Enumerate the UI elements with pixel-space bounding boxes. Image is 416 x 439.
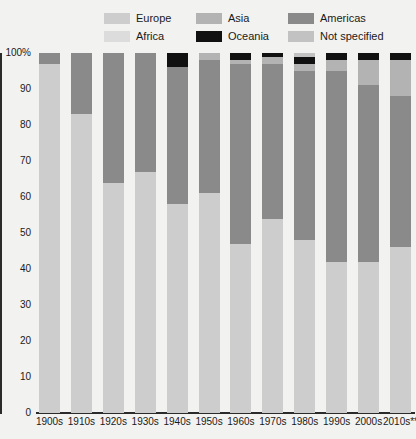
- x-axis-tick-1970s: 1970s: [262, 416, 283, 434]
- legend-item-oceania: Oceania: [196, 31, 288, 42]
- legend-swatch-europe: [104, 13, 130, 24]
- y-axis-tick-80: 80: [20, 120, 36, 130]
- x-axis-tick-1950s: 1950s: [199, 416, 220, 434]
- bar-segment-oceania: [390, 53, 411, 60]
- legend-swatch-not-specified: [288, 31, 314, 42]
- stacked-bar-series: [36, 53, 414, 413]
- legend-label-asia: Asia: [228, 13, 249, 24]
- x-axis-tick-1910s: 1910s: [71, 416, 92, 434]
- y-axis-tick-20: 20: [20, 336, 36, 346]
- bar-column-2000s[interactable]: [358, 53, 379, 413]
- bar-segment-europe: [135, 172, 156, 413]
- bar-column-1960s[interactable]: [230, 53, 251, 413]
- legend-item-europe: Europe: [104, 13, 196, 24]
- bar-segment-americas: [135, 53, 156, 172]
- y-axis-tick-60: 60: [20, 192, 36, 202]
- legend-swatch-americas: [288, 13, 314, 24]
- x-axis-tick-1960s: 1960s: [230, 416, 251, 434]
- bar-column-1990s[interactable]: [326, 53, 347, 413]
- bar-segment-oceania: [294, 57, 315, 64]
- bar-segment-oceania: [230, 53, 251, 60]
- legend-swatch-africa: [104, 31, 130, 42]
- bar-column-1920s[interactable]: [103, 53, 124, 413]
- y-axis-tick-90: 90: [20, 84, 36, 94]
- bar-segment-asia: [294, 64, 315, 71]
- x-axis-tick-1940s: 1940s: [167, 416, 188, 434]
- bar-segment-europe: [199, 193, 220, 413]
- y-axis-tick-10: 10: [20, 372, 36, 382]
- bar-segment-europe: [230, 244, 251, 413]
- bar-segment-americas: [39, 53, 60, 64]
- legend-label-oceania: Oceania: [228, 31, 269, 42]
- bar-segment-europe: [326, 262, 347, 413]
- legend-item-africa: Africa: [104, 31, 196, 42]
- bar-column-1910s[interactable]: [71, 53, 92, 413]
- x-axis-tick-1930s: 1930s: [135, 416, 156, 434]
- bar-segment-europe: [71, 114, 92, 413]
- bar-segment-americas: [358, 85, 379, 261]
- bar-segment-americas: [294, 71, 315, 240]
- bar-segment-europe: [358, 262, 379, 413]
- bar-column-1940s[interactable]: [167, 53, 188, 413]
- bar-segment-europe: [103, 183, 124, 413]
- bar-column-1950s[interactable]: [199, 53, 220, 413]
- bar-column-1980s[interactable]: [294, 53, 315, 413]
- bar-segment-europe: [167, 204, 188, 413]
- y-axis-tick-70: 70: [20, 156, 36, 166]
- legend-swatch-oceania: [196, 31, 222, 42]
- bar-segment-americas: [103, 53, 124, 183]
- bar-column-2010s[interactable]: [390, 53, 411, 413]
- x-axis-tick-1920s: 1920s: [103, 416, 124, 434]
- x-axis-tick-1900s: 1900s: [39, 416, 60, 434]
- bar-column-1900s[interactable]: [39, 53, 60, 413]
- chart-legend: Europe Asia Americas Africa Oceania Not …: [104, 10, 410, 44]
- bar-segment-asia: [358, 60, 379, 85]
- y-axis-tick-30: 30: [20, 300, 36, 310]
- chart-plot-area: [36, 53, 414, 413]
- bar-segment-europe: [262, 219, 283, 413]
- bar-segment-americas: [262, 64, 283, 219]
- bar-segment-americas: [326, 71, 347, 262]
- bar-segment-americas: [390, 96, 411, 247]
- y-axis-tick-100: 100%: [5, 48, 36, 58]
- legend-label-africa: Africa: [136, 31, 164, 42]
- legend-item-americas: Americas: [288, 13, 410, 24]
- bar-column-1930s[interactable]: [135, 53, 156, 413]
- bar-segment-asia: [326, 60, 347, 71]
- y-axis-tick-50: 50: [20, 228, 36, 238]
- legend-item-asia: Asia: [196, 13, 288, 24]
- bar-segment-oceania: [326, 53, 347, 60]
- y-axis-line: [0, 53, 2, 414]
- legend-swatch-asia: [196, 13, 222, 24]
- bar-column-1970s[interactable]: [262, 53, 283, 413]
- x-axis-tick-1990s: 1990s: [326, 416, 347, 434]
- bar-segment-americas: [199, 60, 220, 193]
- x-axis-tick-2010s: 2010s**: [390, 416, 411, 434]
- bar-segment-oceania: [167, 53, 188, 67]
- legend-item-not-specified: Not specified: [288, 31, 410, 42]
- bar-segment-asia: [390, 60, 411, 96]
- bar-segment-europe: [390, 247, 411, 413]
- x-axis-tick-2000s: 2000s: [358, 416, 379, 434]
- bar-segment-americas: [71, 53, 92, 114]
- x-axis-tick-1980s: 1980s: [294, 416, 315, 434]
- bar-segment-europe: [39, 64, 60, 413]
- legend-label-europe: Europe: [136, 13, 171, 24]
- bar-segment-americas: [167, 67, 188, 204]
- bar-segment-asia: [262, 57, 283, 64]
- bar-segment-americas: [230, 64, 251, 244]
- y-axis-tick-40: 40: [20, 264, 36, 274]
- bar-segment-asia: [199, 53, 220, 60]
- legend-label-americas: Americas: [320, 13, 366, 24]
- bar-segment-oceania: [358, 53, 379, 60]
- y-axis-tick-0: 0: [25, 408, 36, 418]
- bar-segment-europe: [294, 240, 315, 413]
- legend-label-not-specified: Not specified: [320, 31, 384, 42]
- x-axis-tick-labels: 1900s1910s1920s1930s1940s1950s1960s1970s…: [36, 416, 414, 434]
